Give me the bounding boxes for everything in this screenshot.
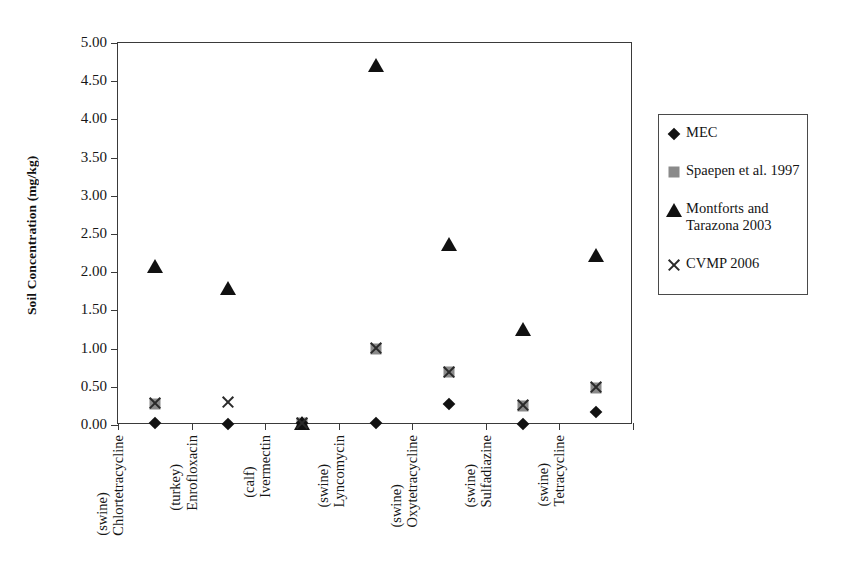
x-axis-category-line: (swine) [316, 435, 331, 508]
y-axis-tick-label: 0.00 [81, 416, 107, 433]
y-axis-tick-label: 1.50 [81, 302, 107, 319]
x-axis-tick [118, 423, 119, 430]
x-axis-tick [265, 423, 266, 430]
data-point-triangle [441, 237, 457, 251]
legend-item-cvmp[interactable]: CVMP 2006 [668, 255, 801, 272]
y-axis-tick [111, 196, 118, 197]
data-point-diamond [590, 406, 603, 419]
x-axis-category-line: Ivermectin [258, 435, 273, 498]
y-axis-tick-label: 4.50 [81, 72, 107, 89]
y-axis-tick-label: 4.00 [81, 111, 107, 128]
x-axis-category-line: (swine) [95, 435, 110, 536]
x-axis-category-label: Lyncomycin(swine) [316, 435, 436, 508]
legend-label: Spaepen et al. 1997 [686, 162, 800, 179]
y-axis-tick-label: 3.00 [81, 187, 107, 204]
y-axis-tick [111, 310, 118, 311]
data-point-cross [442, 365, 456, 379]
x-axis-category-line: (turkey) [168, 435, 183, 511]
x-axis-category-line: Chlortetracycline [111, 435, 126, 536]
legend-item-montforts[interactable]: Montforts and Tarazona 2003 [668, 200, 801, 234]
chart-figure: Soil Concentration (mg/kg) 0.000.501.001… [0, 0, 849, 579]
x-axis-category-line: (swine) [536, 435, 551, 506]
square-marker-icon [668, 164, 681, 179]
data-point-triangle [368, 58, 384, 72]
data-point-cross [148, 396, 162, 410]
y-axis-tick [111, 349, 118, 350]
x-axis-category-line: Tetracycline [552, 435, 567, 506]
x-axis-tick [559, 423, 560, 430]
x-axis-category-line: Lyncomycin [332, 435, 347, 508]
y-axis-tick [111, 119, 118, 120]
legend-label: Montforts and Tarazona 2003 [686, 200, 801, 234]
triangle-marker-icon [668, 202, 681, 217]
x-axis-tick [633, 423, 634, 430]
x-axis-category-label: Oxytetracycline(swine) [389, 435, 509, 528]
y-axis-tick-label: 5.00 [81, 34, 107, 51]
x-axis-category-line: (swine) [463, 435, 478, 507]
data-point-diamond [148, 416, 161, 429]
y-axis-tick-label: 3.50 [81, 149, 107, 166]
data-point-diamond [443, 397, 456, 410]
y-axis-tick-label: 0.50 [81, 378, 107, 395]
data-point-diamond [222, 418, 235, 431]
y-axis-tick-label: 2.00 [81, 263, 107, 280]
data-point-cross [589, 380, 603, 394]
y-axis-tick-label: 1.00 [81, 340, 107, 357]
y-axis-tick [111, 234, 118, 235]
data-point-cross [295, 416, 309, 430]
legend-label: CVMP 2006 [686, 255, 759, 272]
y-axis-tick [111, 425, 118, 426]
x-axis-category-line: Sulfadiazine [479, 435, 494, 507]
data-point-triangle [220, 281, 236, 295]
x-axis-category-line: (swine) [389, 435, 404, 528]
x-axis-category-line: (calf) [242, 435, 257, 498]
cross-marker-icon [668, 257, 681, 272]
x-axis-category-label: Ivermectin(calf) [242, 435, 362, 498]
data-point-cross [516, 398, 530, 412]
legend-item-mec[interactable]: MEC [668, 124, 801, 141]
data-point-diamond [516, 418, 529, 431]
y-axis-title: Soil Concentration (mg/kg) [20, 120, 44, 350]
y-axis-tick [111, 158, 118, 159]
x-axis-category-label: Enrofloxacin(turkey) [168, 435, 288, 511]
y-axis-tick [111, 387, 118, 388]
x-axis-tick [339, 423, 340, 430]
x-axis-category-line: Oxytetracycline [405, 435, 420, 528]
legend-label: MEC [686, 124, 717, 141]
y-axis-tick [111, 272, 118, 273]
x-axis-category-line: Enrofloxacin [185, 435, 200, 511]
y-axis-tick [111, 43, 118, 44]
x-axis-category-label: Tetracycline(swine) [536, 435, 656, 506]
legend-item-spaepen[interactable]: Spaepen et al. 1997 [668, 162, 801, 179]
chart-legend: MEC Spaepen et al. 1997 Montforts and Ta… [658, 114, 808, 295]
data-point-triangle [147, 259, 163, 273]
x-axis-tick [192, 423, 193, 430]
data-point-triangle [588, 248, 604, 262]
data-point-cross [221, 395, 235, 409]
x-axis-tick [412, 423, 413, 430]
data-point-diamond [369, 417, 382, 430]
plot-inner: 0.000.501.001.502.002.503.003.504.004.50… [118, 43, 631, 423]
y-axis-tick-label: 2.50 [81, 225, 107, 242]
y-axis-tick [111, 81, 118, 82]
data-point-cross [369, 341, 383, 355]
data-point-triangle [515, 322, 531, 336]
diamond-marker-icon [668, 126, 681, 141]
x-axis-category-label: Chlortetracycline(swine) [95, 435, 215, 536]
x-axis-category-label: Sulfadiazine(swine) [463, 435, 583, 507]
plot-area: 0.000.501.001.502.002.503.003.504.004.50… [117, 42, 632, 424]
x-axis-tick [486, 423, 487, 430]
